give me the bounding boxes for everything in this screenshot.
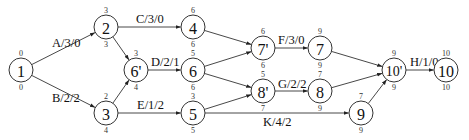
node-1: 100 xyxy=(9,49,33,92)
edge-5-9: K/4/2 xyxy=(205,113,349,129)
edge-label: F/3/0 xyxy=(278,33,304,47)
edge-2-4: C/3/0 xyxy=(118,12,181,27)
node-early-time: 9 xyxy=(392,49,396,58)
node-early-time: 9 xyxy=(318,27,322,36)
edge-3-5: E/1/2 xyxy=(118,98,181,113)
edge-arrow xyxy=(204,95,251,110)
node-label: 10' xyxy=(386,64,403,79)
node-label: 8' xyxy=(258,84,269,101)
edge-arrow xyxy=(204,73,251,87)
node-label: 6' xyxy=(131,63,142,80)
edge-arrow xyxy=(368,80,386,104)
node-early-time: 7 xyxy=(318,70,322,79)
edge-arrow xyxy=(113,80,129,103)
edge-arrow xyxy=(204,52,251,67)
node-early-time: 5 xyxy=(261,70,265,79)
node-late-time: 3 xyxy=(104,40,108,49)
edge-label: G/2/2 xyxy=(278,77,306,91)
node-late-time: 9 xyxy=(318,104,322,113)
node-label: 7 xyxy=(316,41,324,58)
node-early-time: 3 xyxy=(134,49,138,58)
edge-arrow xyxy=(332,73,382,87)
node-early-time: 6 xyxy=(191,6,195,15)
edge-1-3: B/2/2 xyxy=(32,75,95,107)
edge-label: B/2/2 xyxy=(52,91,80,105)
node-9: 979 xyxy=(349,92,373,135)
node-early-time: 3 xyxy=(191,92,195,101)
node-late-time: 5 xyxy=(191,126,195,135)
node-early-time: 0 xyxy=(19,49,23,58)
node-label: 4 xyxy=(189,20,197,37)
node-late-time: 9 xyxy=(318,61,322,70)
edge-10p-10: H/1/0 xyxy=(406,55,438,70)
edge-7p-7: F/3/0 xyxy=(275,33,308,48)
edge-arrow xyxy=(113,37,129,60)
node-label: 10 xyxy=(438,63,454,80)
network-diagram: A/3/0B/2/2C/3/0D/2/1E/1/2F/3/0G/2/2K/4/2… xyxy=(0,0,469,140)
node-3: 324 xyxy=(94,92,118,135)
node-6: 656 xyxy=(181,49,205,92)
node-early-time: 6 xyxy=(261,27,265,36)
edge-label: K/4/2 xyxy=(263,115,291,129)
node-late-time: 4 xyxy=(104,126,108,135)
node-7p: 7'66 xyxy=(251,27,275,70)
edge-6-7p xyxy=(204,52,251,67)
edge-7-10p xyxy=(332,51,383,66)
node-10p: 10'99 xyxy=(382,49,406,92)
node-label: 9 xyxy=(357,106,365,123)
edge-8-10p xyxy=(332,73,382,87)
edge-6p-6: D/2/1 xyxy=(148,55,181,70)
node-4: 466 xyxy=(181,6,205,49)
nodes-layer: 1002333246'344666565357'668'577998799791… xyxy=(9,6,458,135)
node-late-time: 6 xyxy=(261,61,265,70)
node-label: 1 xyxy=(17,63,25,80)
edge-1-2: A/3/0 xyxy=(32,33,95,65)
edge-4-7p xyxy=(204,30,251,44)
node-8p: 8'57 xyxy=(251,70,275,113)
node-early-time: 10 xyxy=(442,49,450,58)
node-late-time: 6 xyxy=(191,83,195,92)
node-7: 799 xyxy=(308,27,332,70)
node-late-time: 7 xyxy=(261,104,265,113)
node-early-time: 2 xyxy=(104,92,108,101)
node-late-time: 9 xyxy=(359,126,363,135)
node-late-time: 4 xyxy=(134,83,138,92)
edge-arrow xyxy=(204,30,251,44)
node-6p: 6'34 xyxy=(124,49,148,92)
edge-3-6p xyxy=(113,80,129,103)
node-late-time: 0 xyxy=(19,83,23,92)
edge-9-10p xyxy=(368,80,386,104)
edge-5-8p xyxy=(204,95,251,110)
node-late-time: 10 xyxy=(442,83,450,92)
node-early-time: 5 xyxy=(191,49,195,58)
edge-2-6p xyxy=(113,37,129,60)
edge-label: E/1/2 xyxy=(137,98,164,112)
node-5: 535 xyxy=(181,92,205,135)
node-2: 233 xyxy=(94,6,118,49)
node-label: 5 xyxy=(189,106,197,123)
node-early-time: 3 xyxy=(104,6,108,15)
edge-label: C/3/0 xyxy=(136,12,164,26)
edge-arrow xyxy=(332,51,383,66)
edge-label: A/3/0 xyxy=(52,36,80,50)
node-label: 7' xyxy=(258,41,269,58)
edge-label: D/2/1 xyxy=(151,55,179,69)
edge-6-8p xyxy=(204,73,251,87)
node-8: 879 xyxy=(308,70,332,113)
node-label: 2 xyxy=(102,20,110,37)
node-late-time: 6 xyxy=(191,40,195,49)
node-label: 6 xyxy=(189,63,197,80)
node-late-time: 9 xyxy=(392,83,396,92)
edge-8p-8: G/2/2 xyxy=(275,77,308,91)
node-label: 8 xyxy=(316,84,324,101)
node-label: 3 xyxy=(102,106,110,123)
edges-layer: A/3/0B/2/2C/3/0D/2/1E/1/2F/3/0G/2/2K/4/2… xyxy=(32,12,439,129)
node-early-time: 7 xyxy=(359,92,363,101)
